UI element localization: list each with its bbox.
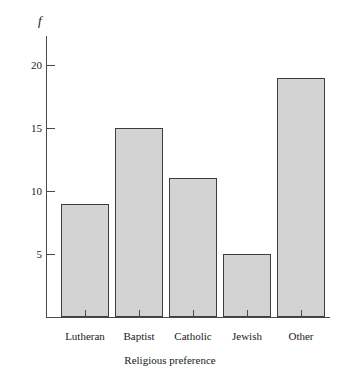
x-tick-baptist (139, 310, 140, 318)
y-tick-label-10: 10 (16, 186, 42, 197)
bar-catholic (169, 178, 217, 317)
bar-jewish (223, 254, 271, 317)
bar-baptist (115, 128, 163, 317)
y-tick-5 (47, 254, 55, 255)
x-category-label-catholic: Catholic (163, 330, 223, 342)
bar-other (277, 78, 325, 317)
x-tick-lutheran (85, 310, 86, 318)
bar-chart: f 20 15 10 5 Lutheran Baptist Catholic J… (0, 0, 340, 381)
y-axis-line (46, 36, 47, 317)
x-category-label-lutheran: Lutheran (55, 330, 115, 342)
y-tick-10 (47, 191, 55, 192)
x-category-label-other: Other (271, 330, 331, 342)
x-tick-catholic (193, 310, 194, 318)
x-category-label-jewish: Jewish (217, 330, 277, 342)
x-axis-line (46, 317, 330, 318)
y-tick-label-20: 20 (16, 60, 42, 71)
x-tick-other (301, 310, 302, 318)
y-tick-label-5: 5 (16, 249, 42, 260)
y-tick-20 (47, 65, 55, 66)
x-tick-jewish (247, 310, 248, 318)
x-category-label-baptist: Baptist (109, 330, 169, 342)
x-axis-title: Religious preference (0, 354, 340, 366)
y-axis-title: f (38, 14, 42, 27)
y-tick-label-15: 15 (16, 123, 42, 134)
y-tick-15 (47, 128, 55, 129)
bar-lutheran (61, 204, 109, 317)
